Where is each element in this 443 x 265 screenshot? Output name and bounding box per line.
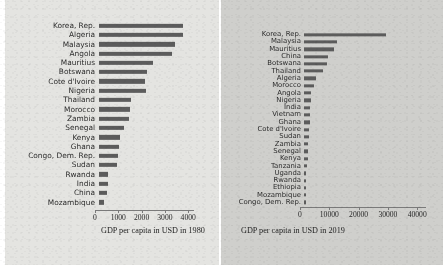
x-tick-label: 2000 bbox=[134, 213, 149, 222]
bar-track bbox=[304, 46, 423, 53]
bar-row: Senegal bbox=[223, 148, 423, 155]
plot-area-1980: Korea, Rep.AlgeriaMalaysiaAngolaMauritiu… bbox=[5, 0, 219, 265]
bar-track bbox=[304, 177, 423, 184]
bar-track bbox=[304, 75, 423, 82]
bar-track bbox=[99, 179, 193, 188]
bar bbox=[99, 51, 172, 55]
bar-row: Senegal bbox=[13, 123, 193, 132]
bar-row: Angola bbox=[223, 89, 423, 96]
bar-track bbox=[99, 160, 193, 169]
bar bbox=[99, 23, 183, 27]
bar bbox=[304, 55, 328, 58]
x-axis-title-2019: GDP per capita in USD in 2019 bbox=[241, 226, 345, 235]
bar-track bbox=[304, 184, 423, 191]
category-label: Algeria bbox=[13, 31, 99, 38]
bar bbox=[99, 33, 183, 37]
bar-row: Congo, Dem. Rep. bbox=[223, 199, 423, 206]
bar bbox=[304, 84, 314, 87]
bar-row: Ethiopia bbox=[223, 184, 423, 191]
bar-track bbox=[304, 192, 423, 199]
bar-track bbox=[304, 119, 423, 126]
bar bbox=[304, 135, 309, 138]
bar-row: Rwanda bbox=[223, 177, 423, 184]
bar-row: Algeria bbox=[223, 75, 423, 82]
bar-track bbox=[304, 89, 423, 96]
bar-row: Rwanda bbox=[13, 170, 193, 179]
bar bbox=[99, 126, 124, 130]
category-label: Sudan bbox=[13, 161, 99, 168]
category-label: Ghana bbox=[13, 143, 99, 150]
bar bbox=[304, 186, 306, 189]
bar-row: China bbox=[13, 188, 193, 197]
bar-row: Botswana bbox=[13, 67, 193, 76]
x-tick-label: 20000 bbox=[349, 210, 368, 219]
bar-track bbox=[304, 97, 423, 104]
bar bbox=[99, 144, 119, 148]
bar-row: Thailand bbox=[223, 67, 423, 74]
bar-track bbox=[99, 105, 193, 114]
category-label: Mozambique bbox=[13, 199, 99, 206]
bar bbox=[99, 163, 117, 167]
bar bbox=[304, 179, 306, 182]
bar bbox=[304, 48, 334, 51]
category-label: Congo, Dem. Rep. bbox=[13, 152, 99, 159]
plot-area-2019: Korea, Rep.MalaysiaMauritiusChinaBotswan… bbox=[221, 0, 443, 265]
category-label: Congo, Dem. Rep. bbox=[223, 199, 304, 206]
bar-row: Mozambique bbox=[13, 198, 193, 207]
category-label: Angola bbox=[13, 50, 99, 57]
bar-track bbox=[99, 67, 193, 76]
bar-row: India bbox=[223, 104, 423, 111]
x-tick-label: 10000 bbox=[320, 210, 339, 219]
bar bbox=[304, 99, 311, 102]
category-label: Botswana bbox=[13, 68, 99, 75]
bar-track bbox=[304, 82, 423, 89]
bar bbox=[304, 201, 306, 204]
bar-track bbox=[99, 142, 193, 151]
bar bbox=[99, 200, 104, 204]
bar-row: Mauritius bbox=[13, 58, 193, 67]
bar-track bbox=[99, 77, 193, 86]
bar-row: Cote d'Ivoire bbox=[13, 77, 193, 86]
bar-row: Mauritius bbox=[223, 46, 423, 53]
bar-row: Zambia bbox=[13, 114, 193, 123]
bar-row: Korea, Rep. bbox=[13, 21, 193, 30]
bar bbox=[304, 128, 309, 131]
bar-row: Korea, Rep. bbox=[223, 31, 423, 38]
bar-track bbox=[99, 40, 193, 49]
chart-panel-1980: Korea, Rep.AlgeriaMalaysiaAngolaMauritiu… bbox=[5, 0, 219, 265]
bar-row: Botswana bbox=[223, 60, 423, 67]
bar bbox=[99, 172, 108, 176]
bar-track bbox=[99, 86, 193, 95]
bar bbox=[99, 107, 130, 111]
category-label: Nigeria bbox=[13, 87, 99, 94]
bar bbox=[304, 106, 310, 109]
category-label: Thailand bbox=[13, 96, 99, 103]
bar bbox=[99, 70, 147, 74]
x-axis-line-1980 bbox=[95, 210, 194, 211]
bar bbox=[304, 194, 306, 197]
bar bbox=[304, 172, 306, 175]
bar-track bbox=[99, 95, 193, 104]
bar bbox=[304, 113, 310, 116]
bar-track bbox=[304, 133, 423, 140]
bar-track bbox=[304, 170, 423, 177]
bar-row: Malaysia bbox=[13, 40, 193, 49]
x-tick-label: 40000 bbox=[408, 210, 427, 219]
bar-row: Morocco bbox=[13, 105, 193, 114]
bar-track bbox=[304, 111, 423, 118]
bar-row: China bbox=[223, 53, 423, 60]
category-label: Mauritius bbox=[13, 59, 99, 66]
bar-row: Vietnam bbox=[223, 111, 423, 118]
category-label: Malaysia bbox=[13, 41, 99, 48]
bar-row: Ghana bbox=[13, 142, 193, 151]
category-label: Korea, Rep. bbox=[13, 22, 99, 29]
bar bbox=[304, 91, 311, 94]
bar-row: Thailand bbox=[13, 95, 193, 104]
bar bbox=[99, 61, 153, 65]
bar-row: Zambia bbox=[223, 140, 423, 147]
bar-track bbox=[304, 148, 423, 155]
bar-row: Angola bbox=[13, 49, 193, 58]
bar bbox=[99, 135, 120, 139]
category-label: Kenya bbox=[13, 134, 99, 141]
bar-track bbox=[99, 188, 193, 197]
